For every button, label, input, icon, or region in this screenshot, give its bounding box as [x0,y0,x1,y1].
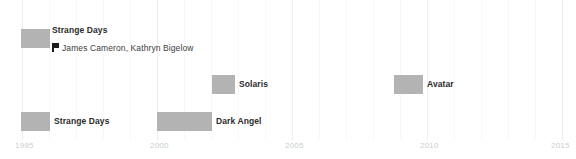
x-tick-1995: 1995 [15,141,34,150]
gridline-minor-1999 [130,0,131,140]
bar-strange-days[interactable] [21,112,50,131]
gridline-minor-2013 [508,0,509,140]
gridline-minor-2009 [400,0,401,140]
gridline-minor-2012 [481,0,482,140]
gridline-minor-2006 [319,0,320,140]
x-tick-2000: 2000 [150,141,169,150]
tooltip-directors: James Cameron, Kathryn Bigelow [62,43,194,53]
x-tick-2015: 2015 [551,141,570,150]
bar-label-strange-days: Strange Days [54,112,110,131]
tooltip-title: Strange Days [52,25,108,35]
gridline-major-2010 [427,0,428,140]
gridline-major-2005 [292,0,293,140]
gridline-minor-2011 [454,0,455,140]
bar-label-solaris: Solaris [239,75,268,94]
gridline-minor-2004 [265,0,266,140]
gridline-minor-2008 [373,0,374,140]
x-axis: 1995 2000 2005 2010 2015 [0,141,576,159]
timeline-chart: Strange Days James Cameron, Kathryn Bige… [0,0,576,159]
bar-avatar[interactable] [394,75,423,94]
director-chair-icon [52,43,59,52]
tooltip-color-swatch [21,29,50,48]
hover-tooltip: Strange Days James Cameron, Kathryn Bige… [0,24,300,54]
bar-label-avatar: Avatar [427,75,454,94]
x-tick-2005: 2005 [285,141,304,150]
x-tick-2010: 2010 [420,141,439,150]
gridline-major-2015 [562,0,563,140]
tooltip-directors-row: James Cameron, Kathryn Bigelow [52,37,194,49]
bar-solaris[interactable] [212,75,235,94]
bar-dark-angel[interactable] [157,112,212,131]
gridline-minor-2007 [346,0,347,140]
gridline-minor-2014 [535,0,536,140]
bar-label-dark-angel: Dark Angel [216,112,262,131]
